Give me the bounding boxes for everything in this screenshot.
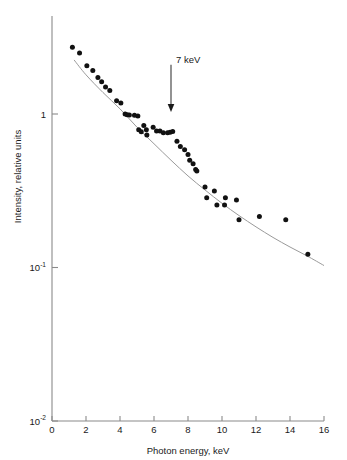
data-point: [107, 88, 112, 93]
annotation-arrow-head: [168, 104, 175, 112]
x-axis-ticks: 0246810121416: [49, 416, 329, 435]
y-axis-ticks: 10-210-11: [30, 109, 58, 427]
annotation-7kev: 7 keV: [168, 54, 201, 112]
x-tick-label: 12: [251, 424, 262, 435]
x-tick-label: 10: [217, 424, 228, 435]
data-point: [114, 98, 119, 103]
y-tick-label: 10-1: [30, 261, 47, 273]
data-point: [70, 45, 75, 50]
data-point: [223, 195, 228, 200]
data-point: [118, 100, 123, 105]
data-point: [103, 84, 108, 89]
data-point: [99, 79, 104, 84]
y-tick-label: 1: [41, 109, 46, 120]
data-point: [174, 139, 179, 144]
data-point: [144, 132, 149, 137]
data-point: [135, 114, 140, 119]
data-point: [257, 214, 262, 219]
data-point: [182, 147, 187, 152]
data-point: [84, 63, 89, 68]
data-point: [139, 129, 144, 134]
data-point-group: [70, 45, 310, 257]
data-point: [234, 198, 239, 203]
data-point: [90, 68, 95, 73]
data-point: [283, 217, 288, 222]
data-point: [151, 125, 156, 130]
data-point: [222, 203, 227, 208]
data-point: [237, 217, 242, 222]
data-point: [186, 152, 191, 157]
data-point: [77, 50, 82, 55]
data-point: [95, 75, 100, 80]
data-point: [203, 184, 208, 189]
data-point: [204, 195, 209, 200]
data-point: [127, 113, 132, 118]
y-tick-label: 10-2: [30, 414, 47, 426]
x-tick-label: 4: [117, 424, 122, 435]
annotation-label: 7 keV: [176, 54, 201, 65]
data-point: [144, 127, 149, 132]
data-point: [214, 203, 219, 208]
y-axis-title: Intensity, relative units: [12, 130, 23, 224]
chart-figure: 024681012141610-210-117 keVPhoton energy…: [0, 0, 347, 460]
x-tick-label: 6: [151, 424, 156, 435]
data-point: [212, 189, 217, 194]
data-point: [191, 161, 196, 166]
photon-energy-intensity-chart: 024681012141610-210-117 keVPhoton energy…: [0, 0, 347, 460]
axes: [52, 16, 324, 421]
x-axis-title: Photon energy, keV: [147, 445, 230, 456]
data-point: [170, 129, 175, 134]
x-tick-label: 8: [185, 424, 190, 435]
x-tick-label: 2: [83, 424, 88, 435]
data-point: [305, 252, 310, 257]
data-point: [194, 169, 199, 174]
data-point: [178, 144, 183, 149]
x-tick-label: 0: [49, 424, 54, 435]
x-tick-label: 16: [319, 424, 330, 435]
x-tick-label: 14: [285, 424, 296, 435]
